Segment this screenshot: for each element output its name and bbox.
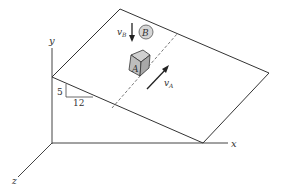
va-label: vA: [164, 78, 174, 89]
block-a-label: A: [131, 64, 139, 74]
y-axis-label: y: [48, 35, 55, 46]
vb-label: vB: [117, 27, 127, 38]
z-axis-label: z: [11, 176, 17, 186]
vb-arrowhead: [129, 35, 135, 42]
x-axis-label: x: [231, 138, 237, 149]
block-a: A: [129, 50, 150, 76]
inclined-plane-diagram: y x z 5 12 A vA B vB: [0, 0, 282, 189]
slope-rise-label: 5: [57, 87, 63, 97]
slope-run-label: 12: [73, 98, 84, 108]
slope-triangle: [66, 84, 93, 97]
z-axis: [18, 143, 52, 177]
inclined-plane: [52, 9, 269, 143]
ball-b-label: B: [141, 28, 149, 38]
